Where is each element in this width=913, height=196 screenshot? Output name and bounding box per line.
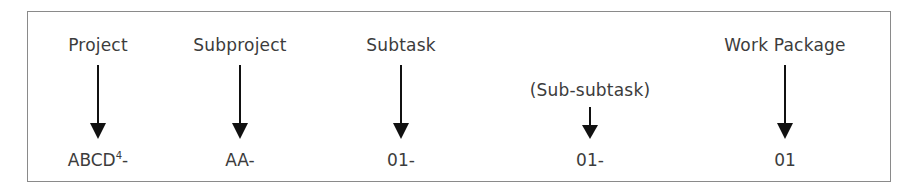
code-text: AA bbox=[225, 150, 248, 170]
level-label-project: Project bbox=[68, 35, 128, 55]
level-label-subproject: Subproject bbox=[193, 35, 286, 55]
arrow-down-icon bbox=[232, 65, 248, 139]
code-separator: - bbox=[409, 150, 415, 170]
code-text: 01 bbox=[774, 150, 796, 170]
level-code-work-package: 01 bbox=[774, 150, 796, 170]
level-label-subtask: Subtask bbox=[366, 35, 436, 55]
level-code-project: ABCD4- bbox=[68, 150, 128, 170]
level-label-work-package: Work Package bbox=[724, 35, 845, 55]
code-text: 01 bbox=[576, 150, 598, 170]
arrow-down-icon bbox=[777, 65, 793, 139]
level-code-subtask: 01- bbox=[387, 150, 415, 170]
arrow-down-icon bbox=[393, 65, 409, 139]
code-separator: - bbox=[122, 150, 128, 170]
level-code-sub-subtask: 01- bbox=[576, 150, 604, 170]
code-separator: - bbox=[598, 150, 604, 170]
arrow-down-icon bbox=[90, 65, 106, 139]
level-code-subproject: AA- bbox=[225, 150, 255, 170]
code-separator: - bbox=[249, 150, 255, 170]
level-label-sub-subtask: (Sub-subtask) bbox=[530, 80, 651, 100]
code-text: ABCD bbox=[68, 150, 116, 170]
code-text: 01 bbox=[387, 150, 409, 170]
arrow-down-icon bbox=[582, 107, 598, 139]
